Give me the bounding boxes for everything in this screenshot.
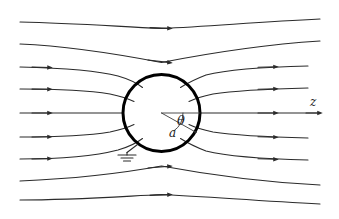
field-line-2-top: [20, 41, 320, 63]
field-line-7-lower-right: [181, 139, 309, 161]
field-line-7-lower-left: [20, 139, 143, 160]
radius-a-label: a: [169, 127, 176, 139]
field-line-3-upper-left: [20, 67, 143, 88]
field-line-diagram: θ a z: [0, 0, 339, 219]
z-axis-label: z: [310, 96, 316, 108]
field-line-7-arrow-right: [258, 159, 276, 160]
diagram-canvas: [0, 0, 339, 219]
theta-label: θ: [177, 114, 185, 127]
ground-stem-diagonal: [127, 145, 138, 153]
field-line-1-top-outer: [20, 19, 320, 29]
field-line-8-bottom: [20, 166, 320, 185]
field-line-9-bottom-outer: [20, 195, 320, 205]
field-line-4-upper-mid-left: [20, 89, 134, 102]
field-line-3-upper-right: [181, 66, 309, 88]
field-line-4-upper-mid-right: [189, 88, 308, 102]
radius-endpoint-dot: [194, 131, 197, 134]
field-line-6-lower-mid-right: [189, 125, 308, 139]
field-line-6-lower-mid-left: [20, 125, 134, 138]
